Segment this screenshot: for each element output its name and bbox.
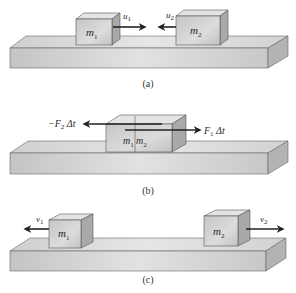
block-m2: m2 [204,210,250,246]
arrow-label-u2: u2 [166,10,175,22]
panel-caption-a: (a) [142,78,153,90]
collision-diagram: m1 m2 u1 u2 (a) m1 m2 −F2 Δt [0,0,296,293]
block-m1: m1 [49,214,93,248]
arrow-label-v2: v2 [260,214,268,226]
arrow-label-f1: F1 Δt [203,125,225,138]
arrow-label-v1: v1 [36,214,44,226]
panel-a: m1 m2 u1 u2 (a) [10,10,288,90]
arrow-label-f2: −F2 Δt [48,118,76,131]
combined-block-m1-m2: m1 m2 [106,115,186,152]
platform [10,36,288,68]
panel-caption-b: (b) [142,185,154,197]
panel-caption-c: (c) [142,274,153,286]
panel-c: m1 m2 v1 v2 (c) [10,210,286,286]
panel-b: m1 m2 −F2 Δt F1 Δt (b) [10,115,288,197]
arrow-label-u1: u1 [123,11,132,23]
block-m1: m1 [76,13,120,45]
block-m2: m2 [176,10,228,45]
